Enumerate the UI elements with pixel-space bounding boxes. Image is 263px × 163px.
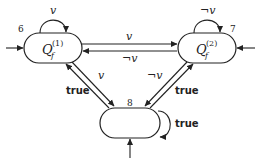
edge-7-to-8-label: ¬v <box>147 69 163 82</box>
node-6-sup: (1) <box>52 39 63 48</box>
edge-6-to-8-label: v <box>98 69 105 82</box>
edge-8-to-6-label: true <box>66 85 90 96</box>
node-7-sup: (2) <box>206 39 217 48</box>
state-node-6: 6 Q f (1) <box>18 24 82 63</box>
self-loop-6-label: v <box>50 4 57 17</box>
self-loop-6-arrow <box>40 20 66 33</box>
state-node-8: 8 <box>100 98 160 138</box>
state-diagram: 6 Q f (1) v 7 Q f (2) ¬v v ¬v 8 true tru… <box>0 0 263 163</box>
edge-8-to-7-label: true <box>175 85 199 96</box>
node-7-number: 7 <box>230 24 236 34</box>
node-6-number: 6 <box>18 24 24 34</box>
edge-7-to-6-label: ¬v <box>122 52 138 65</box>
node-8-number: 8 <box>127 98 133 108</box>
state-node-7: 7 Q f (2) <box>178 24 236 63</box>
edge-6-to-7-label: v <box>126 30 133 43</box>
edge-6-to-8 <box>72 62 114 106</box>
self-loop-7-arrow <box>194 20 220 33</box>
self-loop-8-label: true <box>175 118 199 129</box>
self-loop-7-label: ¬v <box>200 4 216 17</box>
